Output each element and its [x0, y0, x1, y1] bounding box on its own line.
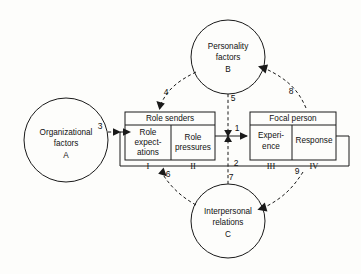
arrow-line-9: [263, 172, 303, 208]
box-title-role-senders: Role senders: [146, 114, 194, 123]
circle-node-organizational-factors: Organizational factors A: [24, 98, 108, 182]
cell-i-line2: expect-: [135, 138, 162, 147]
arrowhead-4: [156, 101, 164, 110]
cell-i-line3: ations: [137, 148, 159, 157]
arrow-6-group: 6: [158, 167, 196, 205]
cell-iii-line1: Experi-: [258, 131, 284, 140]
arrow-3-group: 3: [98, 121, 121, 136]
circle-a-line2: factors: [54, 139, 79, 148]
box-focal-person: Focal person Experi- ence Response III I…: [250, 112, 336, 171]
arrow-label-7: 7: [229, 172, 234, 182]
cell-iv-line1: Response: [296, 136, 333, 145]
arrow-label-8: 8: [289, 86, 294, 96]
arrow-label-2: 2: [234, 158, 239, 168]
roman-numeral-ii: II: [190, 161, 196, 171]
roman-numeral-i: I: [147, 161, 150, 171]
diagram-canvas: Organizational factors A Personality fac…: [0, 0, 361, 274]
box-title-focal-person: Focal person: [269, 114, 317, 123]
arrow-label-6: 6: [166, 169, 171, 179]
arrowhead-9: [257, 202, 267, 211]
cell-iii-line2: ence: [262, 142, 280, 151]
arrowhead-1: [240, 132, 248, 140]
circle-b-line2: factors: [216, 53, 241, 62]
role-episode-diagram: Organizational factors A Personality fac…: [0, 0, 361, 274]
roman-numeral-iv: IV: [310, 161, 320, 171]
cell-ii-line1: Role: [185, 133, 202, 142]
cell-i-line1: Role: [140, 128, 157, 137]
arrow-label-4: 4: [164, 87, 169, 97]
arrow-label-9: 9: [295, 166, 300, 176]
circle-c-letter: C: [225, 230, 231, 239]
circle-b-line1: Personality: [208, 42, 249, 51]
circle-c-line2: relations: [213, 218, 244, 227]
roman-numeral-iii: III: [267, 161, 276, 171]
arrow-label-3: 3: [98, 121, 103, 131]
circle-c-line1: Interpersonal: [204, 207, 252, 216]
arrow-8-group: 8: [258, 65, 306, 108]
circle-a-line1: Organizational: [40, 128, 93, 137]
arrow-4-group: 4: [156, 72, 196, 110]
arrowhead-2-into-role-expectations: [123, 128, 131, 136]
arrow-7-group: 7: [224, 135, 233, 184]
circle-b-letter: B: [225, 65, 231, 74]
arrow-2-group: 2: [234, 158, 239, 168]
circle-a-letter: A: [63, 151, 69, 160]
arrow-1-group: 1: [215, 123, 248, 140]
cell-ii-line2: pressures: [175, 143, 211, 152]
box-role-senders: Role senders Role expect- ations Role pr…: [125, 112, 215, 171]
circle-node-personality-factors: Personality factors B: [191, 20, 265, 94]
arrow-9-group: 9: [257, 166, 303, 211]
arrow-line-8: [264, 68, 306, 108]
arrow-label-1: 1: [235, 123, 240, 133]
circle-node-interpersonal-relations: Interpersonal relations C: [191, 184, 265, 258]
arrowhead-8: [258, 65, 268, 74]
arrow-label-5: 5: [231, 93, 236, 103]
